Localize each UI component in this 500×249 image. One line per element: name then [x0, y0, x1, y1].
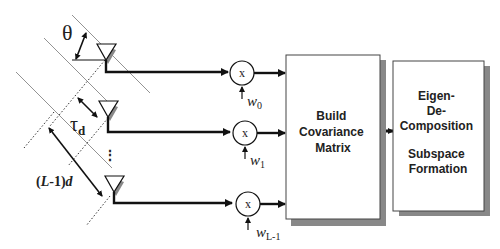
antenna-element-L-1 [105, 176, 232, 203]
wavefront-normal [86, 196, 110, 226]
theta-arrow [76, 33, 86, 59]
weight-label: wL-1 [256, 224, 280, 242]
multiplier-symbol: x [239, 66, 245, 80]
wavefront-lines [16, 15, 150, 168]
feed-line-L-1 [114, 192, 232, 203]
antenna-element-1 [99, 101, 230, 132]
weight-label: w0 [247, 93, 262, 111]
aperture-label: (L-1)d [36, 174, 74, 190]
multiplier-L-1: x wL-1 [236, 192, 285, 242]
array-processing-diagram: θ τd (L-1)d ⋮ x w0 x w1 [0, 0, 500, 249]
covariance-block: Build Covariance Matrix [286, 55, 386, 226]
multiplier-1: x w1 [233, 121, 285, 170]
ellipsis-label: ⋮ [103, 148, 117, 163]
weight-label: w1 [250, 152, 265, 170]
antenna-element-0 [97, 44, 228, 72]
multiplier-0: x w0 [230, 61, 285, 111]
feed-line-0 [106, 60, 228, 72]
tau-arrow [78, 98, 97, 117]
wavefront-line [16, 72, 112, 168]
tau-label: τd [70, 113, 86, 138]
multiplier-symbol: x [242, 126, 248, 140]
theta-label: θ [62, 20, 73, 45]
feed-line-1 [108, 117, 230, 132]
eigen-block: Eigen- De- Composition Subspace Formatio… [393, 61, 490, 216]
wavefront-normal [24, 112, 54, 148]
block-box [393, 61, 484, 211]
array-axis-dotted [24, 60, 110, 226]
multiplier-symbol: x [245, 197, 251, 211]
